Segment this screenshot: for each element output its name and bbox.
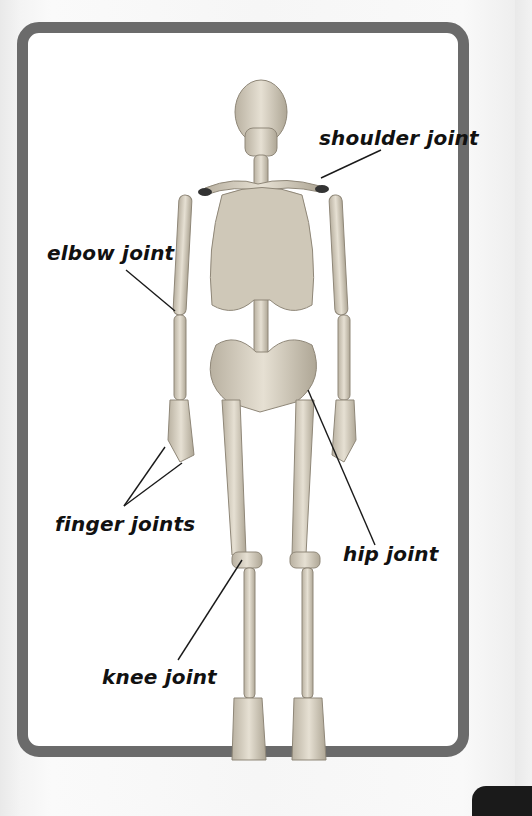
left-humerus	[173, 195, 192, 316]
left-knee	[232, 552, 262, 568]
label-knee-joint: knee joint	[102, 665, 217, 689]
right-shoulder-cap	[315, 185, 329, 193]
left-tibia	[244, 568, 255, 698]
label-finger-joints: finger joints	[55, 512, 195, 536]
left-femur	[222, 400, 246, 555]
left-hand	[168, 400, 194, 462]
finger-leader-line-2	[124, 463, 182, 506]
rib-cage	[210, 188, 313, 311]
left-forearm	[174, 315, 186, 400]
label-elbow-joint: elbow joint	[47, 241, 174, 265]
right-forearm	[338, 315, 350, 400]
elbow-leader-line	[126, 270, 175, 311]
finger-leader-line-1	[124, 447, 165, 506]
label-hip-joint: hip joint	[343, 542, 438, 566]
right-foot	[292, 698, 326, 760]
right-humerus	[329, 195, 348, 316]
knee-leader-line	[178, 560, 242, 660]
left-foot	[232, 698, 266, 760]
right-knee	[290, 552, 320, 568]
shoulder-leader-line	[321, 150, 381, 178]
jaw	[245, 128, 277, 156]
left-shoulder-cap	[198, 188, 212, 196]
label-shoulder-joint: shoulder joint	[319, 126, 479, 150]
right-tibia	[302, 568, 313, 698]
right-femur	[292, 400, 314, 555]
